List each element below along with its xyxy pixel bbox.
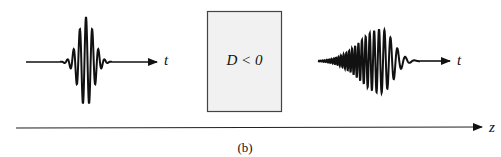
figure-caption: (b) <box>230 140 260 156</box>
z-axis-arrow <box>16 127 482 128</box>
input-time-axis-label: t <box>164 52 168 69</box>
output-time-axis-label: t <box>457 52 461 69</box>
diagram-canvas <box>0 0 501 157</box>
output-chirped-wave-icon <box>318 29 420 93</box>
dispersion-label: D < 0 <box>207 52 282 69</box>
z-axis-label: z <box>489 119 495 136</box>
input-wave-packet-icon <box>60 17 112 104</box>
output-pulse <box>318 29 450 93</box>
input-pulse <box>26 17 157 104</box>
